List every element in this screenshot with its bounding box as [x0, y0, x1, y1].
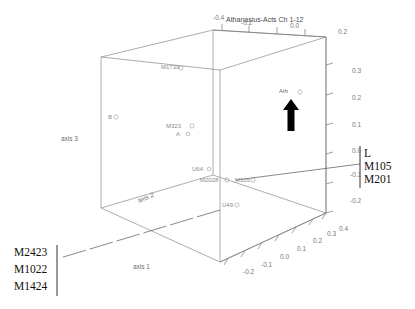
- bottom-axis-tick-2: 0.0: [280, 254, 289, 261]
- bottom-axis-tick-3: 0.1: [297, 246, 306, 253]
- axis-1-label: axis 1: [133, 264, 150, 271]
- group-label-bottomleft-1: M1022: [14, 263, 47, 277]
- group-label-bottomleft-2: M1424: [14, 280, 47, 294]
- marker-b: [114, 115, 118, 119]
- group-label-right-2: M201: [364, 173, 391, 187]
- bottom-axis-tick-5: 0.3: [327, 231, 336, 238]
- right-axis: [326, 37, 333, 213]
- top-axis-tick-1: -0.2: [241, 20, 252, 27]
- point-label-u64: U64: [192, 166, 203, 172]
- right-axis-tick-0: 0.3: [352, 68, 361, 75]
- point-label-a: A: [176, 131, 180, 137]
- marker-m105: [251, 178, 255, 182]
- point-label-m105: M105: [235, 177, 250, 183]
- group-label-bottomleft-0: M2423: [14, 246, 47, 260]
- marker-a: [186, 132, 190, 136]
- leader-line-right: [236, 164, 360, 180]
- right-axis-tick-2: 0.1: [352, 122, 361, 129]
- point-label-m1739: M1739: [161, 64, 179, 70]
- chart-canvas: Athanasius-Acts Ch 1-12 -0.4 -0.2 0.0 0.…: [0, 0, 415, 309]
- cube-wireframe: [101, 30, 326, 262]
- marker-u49: [235, 203, 239, 207]
- axis-3-label: axis 3: [61, 136, 78, 143]
- point-label-b: B: [108, 114, 112, 120]
- scatter-plot-3d: [0, 0, 415, 309]
- right-axis-tick-3: 0.0: [352, 148, 361, 155]
- point-label-m2028: M2028: [200, 177, 218, 183]
- point-label-u49: U49: [222, 202, 233, 208]
- group-label-right-0: L: [364, 147, 371, 161]
- right-axis-tick-5: -0.2: [350, 198, 361, 205]
- point-label-m323: M323: [166, 123, 181, 129]
- point-label-ath: Ath: [279, 88, 288, 94]
- bottom-axis-tick-0: -0.2: [243, 269, 254, 276]
- bottom-axis-tick-6: 0.4: [339, 226, 348, 233]
- marker-ath: [298, 90, 302, 94]
- group-label-right-1: M105: [364, 160, 391, 174]
- arrow-up-icon: [283, 99, 299, 131]
- marker-m323: [190, 124, 194, 128]
- top-axis-tick-2: 0.0: [290, 23, 299, 30]
- data-point-markers: [114, 66, 302, 207]
- bottom-right-axis: [220, 213, 326, 265]
- marker-u64: [207, 167, 211, 171]
- top-axis-tick-0: -0.4: [213, 15, 224, 22]
- bottom-axis-tick-1: -0.1: [261, 262, 272, 269]
- top-axis: [213, 24, 326, 37]
- right-axis-tick-1: 0.2: [352, 95, 361, 102]
- top-axis-tick-3: 0.2: [338, 29, 347, 36]
- right-axis-tick-4: -0.1: [350, 172, 361, 179]
- marker-m1739: [179, 66, 183, 70]
- bottom-axis-tick-4: 0.2: [313, 238, 322, 245]
